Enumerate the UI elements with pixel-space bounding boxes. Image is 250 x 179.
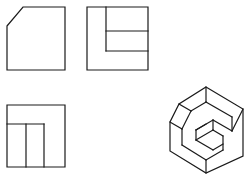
side-view — [87, 7, 148, 70]
isometric-view-edge — [206, 150, 223, 160]
isometric-view-edge — [213, 130, 223, 136]
isometric-view-edge — [179, 104, 191, 111]
orthographic-drawing — [0, 0, 250, 179]
isometric-view — [170, 87, 243, 173]
isometric-view-edge — [206, 102, 232, 117]
isometric-view-edge — [182, 111, 191, 129]
front-view — [7, 7, 65, 70]
isometric-view-edge — [182, 145, 206, 160]
side-view-outline — [87, 7, 148, 70]
isometric-view-edge — [213, 144, 223, 150]
isometric-view-edge — [196, 140, 213, 150]
isometric-view-edge — [170, 122, 182, 129]
top-view — [7, 105, 65, 167]
isometric-view-edge — [191, 102, 206, 111]
front-view-outline — [7, 7, 65, 70]
isometric-view-edge — [213, 120, 232, 131]
isometric-view-edge — [232, 109, 243, 131]
isometric-view-edge — [196, 130, 213, 140]
top-view-outline — [7, 105, 65, 167]
isometric-view-edge — [196, 124, 206, 130]
